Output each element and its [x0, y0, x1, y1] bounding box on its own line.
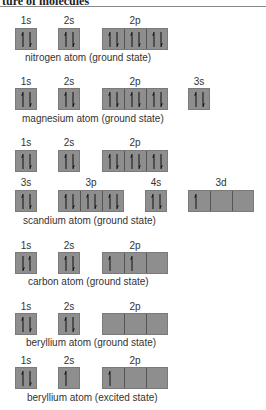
spin-up-arrow-icon [63, 194, 69, 209]
orbital-label: 2p [129, 137, 140, 148]
orbital-cell [103, 253, 124, 273]
spin-down-arrow-icon [158, 154, 164, 169]
orbital-cell [59, 314, 79, 334]
spin-up-arrow-icon [20, 371, 26, 386]
spin-down-arrow-icon [114, 194, 120, 209]
spin-up-arrow-icon [151, 154, 157, 169]
orbital-cell [146, 368, 167, 388]
orbital-cell [210, 191, 231, 211]
orbital-cell [124, 368, 145, 388]
orbital-label: 2s [64, 301, 75, 312]
orbital-box-2p [102, 252, 168, 274]
spin-up-arrow-icon [129, 154, 135, 169]
spin-up-arrow-icon [63, 32, 69, 47]
spin-up-arrow-icon [63, 256, 69, 271]
orbital-box-1s [15, 150, 37, 172]
spin-up-arrow-icon [20, 92, 26, 107]
spin-up-arrow-icon [150, 194, 156, 209]
orbital-cell [16, 29, 36, 49]
orbital-box-3d [188, 190, 254, 212]
orbital-cell [16, 89, 36, 109]
orbital-label: 2s [64, 76, 75, 87]
orbital-cell [146, 191, 166, 211]
spin-up-arrow-icon [20, 194, 26, 209]
orbital-cell [16, 314, 36, 334]
atom-caption: beryllium atom (excited state) [27, 392, 158, 403]
spin-down-arrow-icon [27, 317, 33, 332]
spin-up-arrow-icon [107, 194, 113, 209]
orbital-cell [102, 191, 123, 211]
spin-down-arrow-icon [70, 317, 76, 332]
spin-up-arrow-icon [27, 256, 33, 271]
atom-caption: carbon atom (ground state) [28, 276, 149, 287]
orbital-cell [59, 29, 79, 49]
orbital-cell [16, 191, 36, 211]
spin-down-arrow-icon [158, 32, 164, 47]
atom-caption: beryllium atom (ground state) [26, 337, 156, 348]
orbital-cell [16, 253, 36, 273]
orbital-box-4s [145, 190, 167, 212]
atom-caption: scandium atom (ground state) [23, 215, 156, 226]
spin-down-arrow-icon [70, 256, 76, 271]
orbital-cell [124, 89, 145, 109]
atom-caption: magnesium atom (ground state) [22, 113, 164, 124]
orbital-cell [146, 89, 167, 109]
atom-caption: nitrogen atom (ground state) [25, 52, 151, 63]
spin-down-arrow-icon [200, 92, 206, 107]
orbital-box-2p [102, 88, 168, 110]
spin-up-arrow-icon [63, 92, 69, 107]
spin-up-arrow-icon [107, 154, 113, 169]
orbital-cell [103, 314, 124, 334]
spin-down-arrow-icon [27, 32, 33, 47]
orbital-label: 3s [21, 177, 32, 188]
orbital-cell [124, 314, 145, 334]
spin-up-arrow-icon [129, 92, 135, 107]
spin-up-arrow-icon [20, 317, 26, 332]
orbital-box-3s [188, 88, 210, 110]
spin-down-arrow-icon [136, 92, 142, 107]
spin-down-arrow-icon [136, 32, 142, 47]
orbital-box-1s [15, 252, 37, 274]
orbital-label: 2p [129, 15, 140, 26]
orbital-label: 1s [21, 355, 32, 366]
header-divider [0, 6, 266, 7]
orbital-cell [59, 191, 80, 211]
orbital-cell [103, 151, 124, 171]
orbital-cell [103, 368, 124, 388]
orbital-label: 2p [129, 240, 140, 251]
spin-down-arrow-icon [114, 32, 120, 47]
orbital-label: 3d [215, 177, 226, 188]
spin-down-arrow-icon [20, 256, 26, 271]
orbital-box-2s [58, 313, 80, 335]
spin-up-arrow-icon [107, 371, 113, 386]
orbital-box-2s [58, 28, 80, 50]
spin-down-arrow-icon [27, 371, 33, 386]
orbital-cell [103, 29, 124, 49]
orbital-cell [103, 89, 124, 109]
spin-up-arrow-icon [107, 256, 113, 271]
orbital-label: 3s [194, 76, 205, 87]
orbital-cell [16, 151, 36, 171]
spin-up-arrow-icon [20, 154, 26, 169]
orbital-box-2s [58, 367, 80, 389]
orbital-cell [146, 253, 167, 273]
spin-down-arrow-icon [92, 194, 98, 209]
orbital-cell [146, 151, 167, 171]
orbital-box-3s [15, 190, 37, 212]
orbital-label: 4s [151, 177, 162, 188]
spin-up-arrow-icon [85, 194, 91, 209]
spin-up-arrow-icon [20, 32, 26, 47]
spin-down-arrow-icon [157, 194, 163, 209]
spin-up-arrow-icon [63, 371, 69, 386]
spin-up-arrow-icon [63, 154, 69, 169]
orbital-box-2p [102, 367, 168, 389]
orbital-box-2s [58, 150, 80, 172]
orbital-label: 1s [21, 15, 32, 26]
orbital-cell [16, 368, 36, 388]
page-header: ture of molecules [0, 0, 266, 6]
orbital-box-2p [102, 150, 168, 172]
spin-up-arrow-icon [107, 32, 113, 47]
orbital-label: 2p [129, 76, 140, 87]
spin-up-arrow-icon [107, 92, 113, 107]
orbital-box-2p [102, 28, 168, 50]
